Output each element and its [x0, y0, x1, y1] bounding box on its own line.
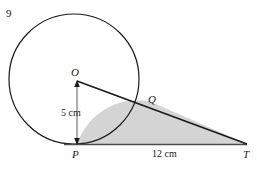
question-number: 9 [6, 8, 12, 19]
radius-measurement-label: 5 cm [61, 108, 81, 118]
point-label-t: T [243, 149, 249, 160]
point-label-p: P [72, 149, 79, 160]
point-label-o: O [71, 67, 79, 78]
geometry-figure: 9 O P Q T 5 cm 12 cm [0, 0, 257, 173]
geometry-diagram [0, 0, 257, 173]
point-label-q: Q [148, 94, 156, 105]
base-measurement-label: 12 cm [152, 149, 177, 159]
